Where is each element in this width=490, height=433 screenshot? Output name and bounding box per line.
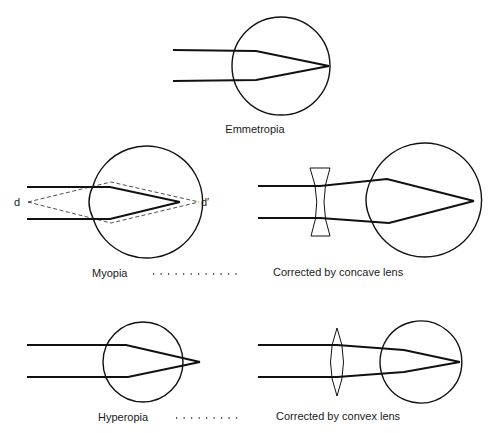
eye-concave-corrected — [366, 143, 482, 257]
ray-lower — [27, 362, 200, 377]
eye-emmetropia — [232, 17, 330, 115]
convex-lens — [331, 328, 344, 396]
refraction-diagram: Emmetropia d d′ Myopia Corrected by conc… — [0, 0, 490, 433]
ray-upper — [173, 50, 329, 66]
dashed-ray-upper — [28, 182, 199, 202]
eye-convex-corrected — [380, 321, 462, 403]
hyperopia-label: Hyperopia — [98, 411, 149, 423]
ray-upper — [258, 345, 460, 362]
far-point-label: d′ — [201, 196, 209, 208]
myopia-label: Myopia — [92, 267, 128, 279]
ray-upper — [27, 345, 200, 362]
eye-hyperopia — [103, 322, 183, 402]
ray-lower — [27, 202, 180, 219]
ray-lower — [258, 362, 460, 377]
emmetropia-panel: Emmetropia — [173, 17, 330, 135]
near-point-label: d — [14, 196, 20, 208]
emmetropia-label: Emmetropia — [225, 123, 285, 135]
concave-correction-panel: Corrected by concave lens — [258, 143, 482, 278]
convex-correction-panel: Corrected by convex lens — [258, 321, 462, 422]
ray-upper — [27, 187, 180, 202]
ray-lower — [173, 66, 329, 81]
hyperopia-panel: Hyperopia — [27, 322, 243, 423]
concave-lens — [310, 168, 330, 236]
convex-label: Corrected by convex lens — [276, 410, 401, 422]
myopia-panel: d d′ Myopia — [14, 146, 242, 279]
eye-myopia — [89, 146, 203, 258]
concave-label: Corrected by concave lens — [273, 266, 404, 278]
